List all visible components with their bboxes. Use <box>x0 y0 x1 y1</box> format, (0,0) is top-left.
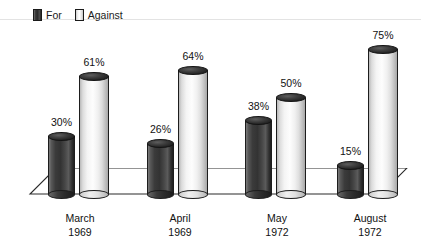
cylinder-bottom-ellipse <box>245 190 272 199</box>
cylinder-bar-chart: For Against 30%61%26%64%38%50%15%75% Mar… <box>0 0 421 245</box>
cylinder-body <box>147 144 174 194</box>
chart-legend: For Against <box>33 8 123 22</box>
category-label: April1969 <box>135 211 225 239</box>
cylinder-body <box>245 121 272 194</box>
cylinder-top-ellipse <box>337 161 364 170</box>
cylinder-bottom-ellipse <box>368 190 398 199</box>
category-label: March1969 <box>35 211 125 239</box>
bar-cylinder-for: 26% <box>147 144 174 194</box>
legend-swatch-against-icon <box>75 9 84 21</box>
cylinder-bottom-ellipse <box>178 190 208 199</box>
cylinder-bottom-ellipse <box>48 190 75 199</box>
category-label-year: 1972 <box>325 225 415 239</box>
legend-entry-for: For <box>33 9 62 21</box>
cylinder-body <box>79 76 109 194</box>
cylinder-top-ellipse <box>276 93 306 102</box>
bar-value-label: 30% <box>51 117 72 128</box>
category-label-month: April <box>135 211 225 225</box>
cylinder-top-ellipse <box>368 45 398 54</box>
category-label-year: 1972 <box>232 225 322 239</box>
cylinder-bottom-ellipse <box>276 190 306 199</box>
bar-cylinder-for: 38% <box>245 121 272 194</box>
bar-value-label: 64% <box>182 51 203 62</box>
cylinder-bottom-ellipse <box>147 190 174 199</box>
bar-value-label: 61% <box>83 57 104 68</box>
category-label-year: 1969 <box>135 225 225 239</box>
bar-cylinder-against: 64% <box>178 70 208 194</box>
cylinder-bottom-ellipse <box>79 190 109 199</box>
legend-label-against: Against <box>88 10 123 21</box>
bar-value-label: 75% <box>372 30 393 41</box>
category-axis-labels: March1969April1969May1972August1972 <box>0 211 421 245</box>
category-label-month: May <box>232 211 322 225</box>
bar-value-label: 38% <box>248 101 269 112</box>
cylinder-top-ellipse <box>178 66 208 75</box>
category-label-month: August <box>325 211 415 225</box>
legend-label-for: For <box>46 10 62 21</box>
cylinder-body <box>368 49 398 194</box>
legend-swatch-for-icon <box>33 9 42 21</box>
bar-cylinder-against: 61% <box>79 76 109 194</box>
bar-cylinder-for: 15% <box>337 165 364 194</box>
cylinder-bottom-ellipse <box>337 190 364 199</box>
cylinder-body <box>178 70 208 194</box>
cylinder-body <box>276 98 306 195</box>
cylinder-top-ellipse <box>48 132 75 141</box>
bar-cylinder-for: 30% <box>48 136 75 194</box>
bar-cylinder-against: 75% <box>368 49 398 194</box>
category-label-year: 1969 <box>35 225 125 239</box>
category-label: May1972 <box>232 211 322 239</box>
bar-value-label: 26% <box>150 124 171 135</box>
bar-value-label: 50% <box>280 78 301 89</box>
bar-cylinder-against: 50% <box>276 98 306 195</box>
category-label: August1972 <box>325 211 415 239</box>
legend-entry-against: Against <box>75 9 123 21</box>
cylinder-body <box>48 136 75 194</box>
plot-area: 30%61%26%64%38%50%15%75% <box>0 0 421 245</box>
bar-value-label: 15% <box>340 146 361 157</box>
category-label-month: March <box>35 211 125 225</box>
cylinder-top-ellipse <box>79 72 109 81</box>
